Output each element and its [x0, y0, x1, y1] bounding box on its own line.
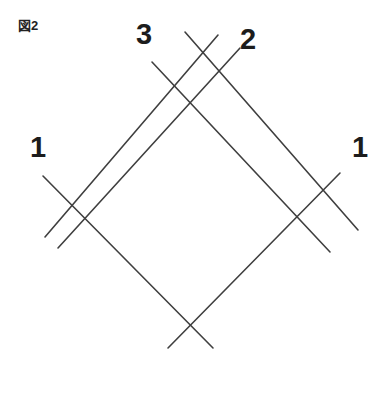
- line-2: [58, 48, 240, 248]
- line-group: [43, 32, 358, 348]
- line-diagram: [0, 0, 380, 393]
- line-right-1: [168, 173, 340, 348]
- line-diag-ne: [185, 32, 358, 230]
- line-label-top-3: 3: [136, 20, 152, 49]
- line-3: [152, 62, 330, 252]
- line-label-top-2: 2: [240, 25, 256, 54]
- figure-canvas: 図2 1 3 2 1: [0, 0, 380, 393]
- line-label-left-1: 1: [30, 133, 46, 162]
- line-diag-nw: [45, 35, 218, 237]
- figure-caption: 図2: [18, 19, 38, 32]
- line-left-1: [43, 176, 213, 348]
- line-label-right-1: 1: [352, 133, 368, 162]
